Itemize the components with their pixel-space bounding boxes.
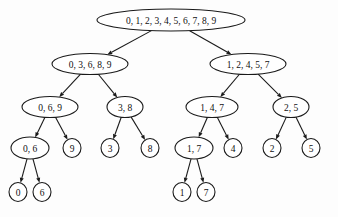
node-label: 3, 8: [118, 103, 133, 113]
tree-node[interactable]: 0: [9, 183, 27, 202]
tree-diagram: 0, 1, 2, 3, 4, 5, 6, 7, 8, 90, 3, 6, 8, …: [0, 0, 338, 217]
tree-edge: [258, 74, 282, 98]
edge-arrowhead-icon: [36, 178, 40, 183]
tree-node[interactable]: 0, 1, 2, 3, 4, 5, 6, 7, 8, 9: [97, 9, 245, 31]
edge-line: [296, 117, 305, 135]
edge-arrowhead-icon: [225, 134, 229, 139]
tree-edge: [107, 31, 151, 55]
tree-edge: [276, 117, 286, 139]
edge-arrowhead-icon: [184, 178, 188, 183]
tree-node[interactable]: 1, 4, 7: [186, 97, 238, 118]
tree-edge: [131, 117, 145, 140]
node-label: 5: [309, 144, 314, 154]
edge-line: [63, 74, 81, 93]
edge-arrowhead-icon: [141, 135, 145, 140]
edge-line: [190, 31, 227, 52]
tree-edge: [217, 117, 228, 139]
tree-edge: [197, 159, 204, 183]
edge-line: [186, 159, 191, 178]
edge-line: [33, 159, 38, 178]
edge-line: [201, 117, 208, 132]
nodes-layer: 0, 1, 2, 3, 4, 5, 6, 7, 8, 90, 3, 6, 8, …: [9, 9, 320, 202]
node-label: 0, 1, 2, 3, 4, 5, 6, 7, 8, 9: [126, 16, 217, 26]
edge-arrowhead-icon: [276, 134, 280, 139]
diagram-canvas: 0, 1, 2, 3, 4, 5, 6, 7, 8, 90, 3, 6, 8, …: [0, 0, 338, 217]
edge-arrowhead-icon: [226, 50, 231, 54]
tree-edge: [220, 74, 239, 97]
edge-line: [37, 117, 45, 133]
node-label: 1, 4, 7: [200, 103, 224, 113]
tree-node[interactable]: 1, 2, 4, 5, 7: [210, 54, 286, 75]
edge-line: [224, 74, 240, 93]
tree-edge: [184, 159, 191, 183]
edge-line: [56, 117, 66, 135]
edge-line: [98, 74, 114, 93]
edge-arrowhead-icon: [199, 132, 203, 137]
tree-node[interactable]: 2: [263, 139, 281, 158]
node-label: 0: [16, 188, 21, 198]
tree-node[interactable]: 2, 5: [273, 97, 309, 118]
edge-arrowhead-icon: [107, 51, 112, 55]
tree-node[interactable]: 0, 3, 6, 8, 9: [52, 54, 128, 75]
edge-line: [22, 159, 27, 178]
tree-edge: [113, 117, 121, 139]
tree-edge: [98, 74, 117, 97]
edge-line: [278, 117, 286, 135]
tree-node[interactable]: 1, 7: [175, 137, 213, 159]
tree-node[interactable]: 0, 6, 9: [22, 97, 78, 118]
edge-line: [197, 159, 202, 178]
node-label: 0, 6: [23, 144, 38, 154]
node-label: 1, 7: [187, 144, 202, 154]
node-label: 9: [70, 144, 75, 154]
edge-arrowhead-icon: [113, 134, 117, 139]
tree-node[interactable]: 9: [63, 139, 81, 158]
node-label: 2, 5: [284, 103, 299, 113]
tree-node[interactable]: 8: [141, 139, 159, 158]
tree-edge: [296, 117, 307, 139]
tree-node[interactable]: 0, 6: [11, 137, 49, 159]
edge-arrowhead-icon: [303, 134, 307, 139]
tree-node[interactable]: 6: [33, 183, 51, 202]
tree-edge: [199, 117, 208, 137]
edge-arrowhead-icon: [200, 178, 204, 183]
node-label: 6: [40, 188, 45, 198]
tree-node[interactable]: 3, 8: [107, 97, 143, 118]
tree-node[interactable]: 7: [197, 183, 215, 202]
node-label: 0, 3, 6, 8, 9: [69, 60, 112, 70]
node-label: 1: [180, 188, 185, 198]
node-label: 7: [204, 188, 209, 198]
node-label: 1, 2, 4, 5, 7: [227, 60, 270, 70]
edge-line: [131, 117, 143, 136]
edge-arrowhead-icon: [20, 178, 24, 183]
tree-node[interactable]: 4: [224, 139, 242, 158]
edge-line: [217, 117, 226, 135]
tree-edge: [20, 159, 27, 183]
node-label: 4: [231, 144, 236, 154]
node-label: 3: [108, 144, 113, 154]
node-label: 2: [270, 144, 275, 154]
edge-line: [112, 31, 152, 53]
edge-line: [258, 74, 278, 94]
edge-line: [115, 117, 121, 134]
tree-node[interactable]: 5: [302, 139, 320, 158]
tree-edge: [190, 31, 232, 55]
node-label: 0, 6, 9: [38, 103, 62, 113]
edge-arrowhead-icon: [35, 132, 39, 137]
tree-edge: [35, 117, 45, 137]
edge-arrowhead-icon: [63, 134, 67, 139]
tree-node[interactable]: 3: [101, 139, 119, 158]
tree-edge: [33, 159, 40, 183]
node-label: 8: [148, 144, 153, 154]
tree-edge: [56, 117, 68, 139]
tree-node[interactable]: 1: [173, 183, 191, 202]
tree-edge: [59, 74, 80, 97]
